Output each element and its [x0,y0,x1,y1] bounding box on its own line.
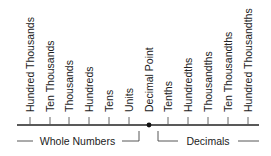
decimal-point-dot [147,123,152,128]
label-hundreds: Hundreds [83,66,95,112]
label-ten-thousandths: Ten Thousandths [222,32,234,112]
ticks [30,117,248,125]
label-decimal-point: Decimal Point [143,47,155,112]
label-thousands: Thousands [63,60,75,112]
place-value-diagram: Hundred Thousands Ten Thousands Thousand… [0,0,271,156]
label-thousandths: Thousandths [202,51,214,112]
label-hundredths: Hundredths [182,58,194,112]
place-value-labels: Hundred Thousands Ten Thousands Thousand… [24,8,254,112]
decimals-label: Decimals [186,135,229,147]
label-units: Units [123,88,135,112]
label-hundred-thousands: Hundred Thousands [24,17,36,112]
label-tens: Tens [103,90,115,112]
label-tenths: Tenths [162,81,174,112]
label-hundred-thousandths: Hundred Thousandths [242,8,254,112]
label-ten-thousands: Ten Thousands [44,40,56,112]
whole-numbers-label: Whole Numbers [40,135,115,147]
